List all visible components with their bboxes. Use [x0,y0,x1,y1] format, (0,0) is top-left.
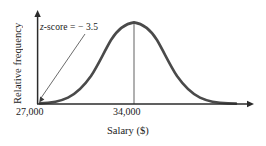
x-tick-label-27000: 27,000 [16,107,44,117]
y-axis-arrowhead [34,10,40,17]
x-axis-arrowhead [247,101,254,107]
x-tick-label-34000: 34,000 [113,107,141,117]
bell-curve [40,22,236,103]
y-axis-title: Relative frequency [11,24,25,102]
zscore-value: -score = − 3.5 [44,22,98,32]
normal-distribution-figure: z-score = − 3.5 27,000 34,000 Salary ($)… [0,0,266,146]
annotation-leader-line [41,34,85,98]
x-axis-title: Salary ($) [107,126,149,137]
zscore-annotation: z-score = − 3.5 [40,23,98,33]
